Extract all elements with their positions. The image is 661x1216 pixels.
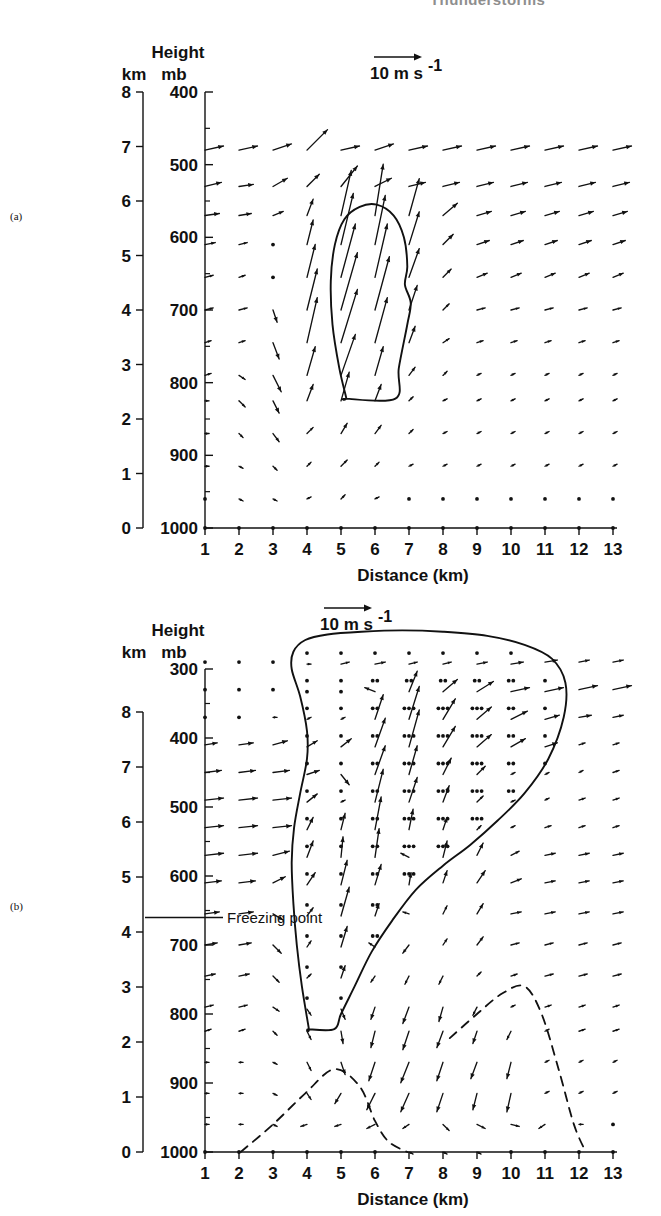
- hydrometeor-dot-cluster: [371, 934, 379, 938]
- hydrometeor-dot-cluster: [507, 679, 515, 683]
- panel-a-label: (a): [10, 210, 22, 222]
- hydrometeor-dot: [339, 789, 343, 793]
- panel-b-freezing-level: Freezing point: [145, 909, 323, 926]
- wind-vector-dot: [475, 497, 479, 501]
- hydrometeor-dot: [437, 817, 441, 821]
- wind-vector-head: [548, 340, 552, 343]
- mb-axis-title: mb: [161, 65, 187, 84]
- hydrometeor-dot-cluster: [403, 872, 416, 876]
- hydrometeor-dot-cluster: [305, 996, 309, 1000]
- wind-vector-dot: [271, 275, 275, 279]
- hydrometeor-dot: [511, 706, 515, 710]
- hydrometeor-dot-cluster: [471, 789, 484, 793]
- hydrometeor-dot: [305, 817, 309, 821]
- wind-vector-dot: [543, 526, 547, 530]
- hydrometeor-dot: [475, 789, 479, 793]
- hydrometeor-dot: [441, 817, 445, 821]
- wind-vector-dot: [543, 1150, 547, 1154]
- hydrometeor-dot-cluster: [403, 762, 416, 766]
- wind-vector-head: [622, 211, 628, 215]
- hydrometeor-dot: [437, 844, 441, 848]
- hydrometeor-dot: [543, 734, 547, 738]
- wind-vector-head: [548, 825, 552, 828]
- hydrometeor-dot: [339, 872, 343, 876]
- hydrometeor-dot-cluster: [339, 651, 343, 655]
- hydrometeor-dot-cluster: [543, 734, 547, 738]
- hydrometeor-dot: [475, 651, 479, 655]
- hydrometeor-dot-cluster: [509, 651, 513, 655]
- wind-vector-head: [275, 354, 279, 360]
- hydrometeor-dot-cluster: [403, 817, 416, 821]
- hydrometeor-dot-cluster: [437, 706, 450, 710]
- hydrometeor-dot: [507, 789, 511, 793]
- hydrometeor-dot-cluster: [305, 934, 309, 938]
- wind-vector-head: [548, 1005, 552, 1008]
- hydrometeor-dot: [305, 934, 309, 938]
- hydrometeor-dot: [437, 706, 441, 710]
- hydrometeor-dot: [371, 789, 375, 793]
- hydrometeor-dot: [405, 679, 409, 683]
- wind-vector-head: [312, 347, 316, 353]
- wind-vector-dot: [441, 497, 445, 501]
- mb-tick-label: 600: [170, 228, 198, 247]
- wind-vector-head: [354, 289, 358, 295]
- hydrometeor-dot: [475, 762, 479, 766]
- page-header-partial: Thunderstorms: [430, 0, 661, 16]
- hydrometeor-dot-cluster: [305, 817, 309, 821]
- mb-tick-label: 500: [170, 156, 198, 175]
- wind-vector-head: [585, 273, 590, 276]
- hydrometeor-dot: [375, 934, 379, 938]
- wind-vector-head: [274, 317, 278, 322]
- hydrometeor-dot: [403, 789, 407, 793]
- wind-vector-head: [616, 1029, 620, 1032]
- x-tick-label: 12: [570, 540, 589, 559]
- hydrometeor-dot: [373, 651, 377, 655]
- mb-tick-label: 400: [170, 83, 198, 102]
- wind-vector-head: [582, 1005, 586, 1008]
- hydrometeor-dot-cluster: [471, 706, 484, 710]
- hydrometeor-dot: [507, 734, 511, 738]
- km-tick-label: 8: [122, 83, 131, 102]
- hydrometeor-dot: [471, 789, 475, 793]
- x-tick-label: 7: [404, 540, 413, 559]
- hydrometeor-dot-cluster: [543, 679, 547, 683]
- freezing-point-label: Freezing point: [227, 909, 323, 926]
- hydrometeor-dot: [371, 872, 375, 876]
- hydrometeor-dot-cluster: [305, 706, 309, 710]
- hydrometeor-dot: [403, 844, 407, 848]
- wind-vector-head: [279, 211, 284, 214]
- hydrometeor-dot-cluster: [339, 706, 343, 710]
- hydrometeor-dot: [403, 706, 407, 710]
- wind-vector-head: [240, 1092, 243, 1095]
- wind-vector-dot: [475, 526, 479, 530]
- wind-vector-head: [411, 326, 415, 332]
- mb-tick-label: 500: [170, 798, 198, 817]
- wind-vector-head: [415, 249, 419, 255]
- hydrometeor-dot: [371, 903, 375, 907]
- km-tick-label: 5: [122, 868, 131, 887]
- wind-vector-head: [616, 340, 620, 343]
- hydrometeor-dot: [371, 762, 375, 766]
- hydrometeor-dot: [475, 706, 479, 710]
- x-tick-label: 10: [502, 540, 521, 559]
- hydrometeor-dot-cluster: [305, 789, 309, 793]
- km-tick-label: 3: [122, 356, 131, 375]
- x-axis-title: Distance (km): [357, 1190, 468, 1209]
- hydrometeor-dot: [305, 789, 309, 793]
- wind-vector-head: [344, 927, 348, 933]
- hydrometeor-dot: [480, 817, 484, 821]
- hydrometeor-dot: [412, 817, 416, 821]
- wind-vector-head: [381, 718, 385, 724]
- hydrometeor-dot: [473, 679, 477, 683]
- wind-vector-dot: [237, 526, 241, 530]
- wind-vector-head: [414, 746, 418, 752]
- hydrometeor-dot: [480, 734, 484, 738]
- hydrometeor-dot-cluster: [471, 817, 484, 821]
- wind-vector-head: [444, 871, 448, 876]
- km-tick-label: 6: [122, 813, 131, 832]
- km-tick-label: 7: [122, 138, 131, 157]
- x-tick-label: 2: [234, 1164, 243, 1183]
- legend-arrow-head: [364, 605, 372, 612]
- wind-vector-head: [206, 399, 209, 402]
- wind-vector-head: [416, 687, 420, 693]
